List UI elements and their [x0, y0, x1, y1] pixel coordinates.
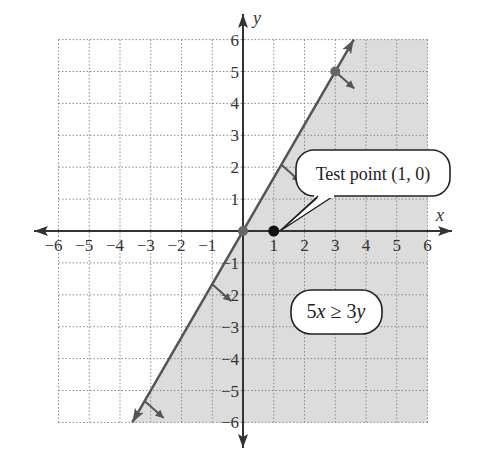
x-tick-label: −2 [167, 236, 185, 255]
test-point-callout-text: Test point (1, 0) [316, 164, 431, 185]
x-tick-label: −5 [75, 236, 93, 255]
x-tick-label: 1 [270, 236, 279, 255]
x-tick-label: 6 [423, 236, 432, 255]
y-axis-label: y [251, 8, 261, 28]
x-tick-label: −3 [137, 236, 155, 255]
inequality-label: 5x ≥ 3y [307, 300, 366, 323]
x-tick-label: 3 [331, 236, 340, 255]
y-tick-label: 5 [231, 63, 240, 82]
test-point-1-0 [268, 226, 279, 237]
y-tick-label: 6 [231, 31, 240, 50]
y-tick-label: −6 [221, 413, 239, 432]
y-tick-label: −4 [221, 350, 240, 369]
x-tick-label: −4 [106, 236, 125, 255]
inequality-graph: x y −6−5−4−3−2−1123456 −6−5−4−3−2−112345… [0, 0, 479, 465]
y-tick-label: 4 [231, 94, 240, 113]
x-tick-label: 2 [300, 236, 309, 255]
x-tick-label: 5 [393, 236, 402, 255]
y-tick-label: −3 [221, 318, 239, 337]
y-tick-label: −5 [221, 382, 239, 401]
x-tick-label: 4 [362, 236, 371, 255]
y-tick-label: 1 [231, 190, 240, 209]
boundary-point-origin [238, 226, 248, 236]
boundary-point-3-5 [330, 67, 340, 77]
y-tick-label: 2 [231, 158, 240, 177]
x-axis-label: x [435, 205, 444, 225]
x-tick-label: −6 [44, 236, 62, 255]
y-tick-label: 3 [231, 126, 240, 145]
inequality-label-box: 5x ≥ 3y [291, 290, 382, 334]
x-tick-label: −1 [198, 236, 216, 255]
